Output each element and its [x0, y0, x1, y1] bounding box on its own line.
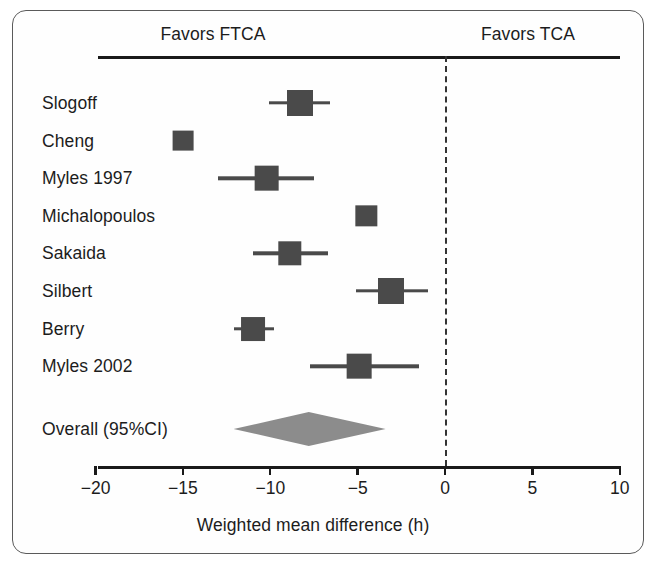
study-label: Sakaida	[42, 243, 106, 264]
study-point-marker	[347, 354, 372, 379]
study-label: Michalopoulos	[42, 205, 155, 226]
study-label: Cheng	[42, 130, 94, 151]
x-axis-tick	[356, 466, 358, 475]
x-axis-tick-label: 5	[527, 478, 537, 499]
x-axis-tick	[269, 466, 271, 475]
zero-reference-line	[445, 56, 447, 466]
header-rule	[98, 56, 620, 59]
study-label: Berry	[42, 318, 84, 339]
x-axis-tick-label: −10	[255, 478, 285, 499]
figure-frame: Favors FTCA Favors TCA SlogoffChengMyles…	[12, 10, 644, 554]
study-point-marker	[378, 278, 404, 304]
study-label: Myles 2002	[42, 356, 133, 377]
x-axis-tick-label: −15	[168, 478, 198, 499]
x-axis-tick-label: 10	[610, 478, 629, 499]
study-point-marker	[241, 317, 265, 341]
x-axis-tick	[444, 466, 446, 475]
study-point-marker	[254, 166, 279, 191]
x-axis-tick	[94, 466, 96, 475]
x-axis-tick-label: −5	[348, 478, 368, 499]
x-axis-tick	[531, 466, 533, 475]
favors-right-text: Favors TCA	[481, 24, 575, 44]
x-axis-title: Weighted mean difference (h)	[13, 515, 643, 536]
study-label: Slogoff	[42, 93, 97, 114]
study-point-marker	[356, 205, 377, 226]
overall-summary-diamond	[234, 412, 386, 446]
study-point-marker	[287, 90, 313, 116]
x-axis-tick-label: −20	[81, 478, 111, 499]
x-axis-tick	[182, 466, 184, 475]
x-axis-title-text: Weighted mean difference (h)	[197, 515, 430, 535]
overall-label: Overall (95%CI)	[42, 419, 168, 440]
x-axis-rule	[98, 466, 620, 469]
study-point-marker	[173, 130, 194, 151]
x-axis-tick-label: 0	[440, 478, 450, 499]
study-point-marker	[278, 242, 301, 265]
forest-plot-surface: Favors FTCA Favors TCA SlogoffChengMyles…	[13, 11, 643, 553]
favors-right-label: Favors TCA	[13, 24, 643, 45]
x-axis-tick	[619, 466, 621, 475]
study-label: Silbert	[42, 281, 92, 302]
study-label: Myles 1997	[42, 168, 133, 189]
